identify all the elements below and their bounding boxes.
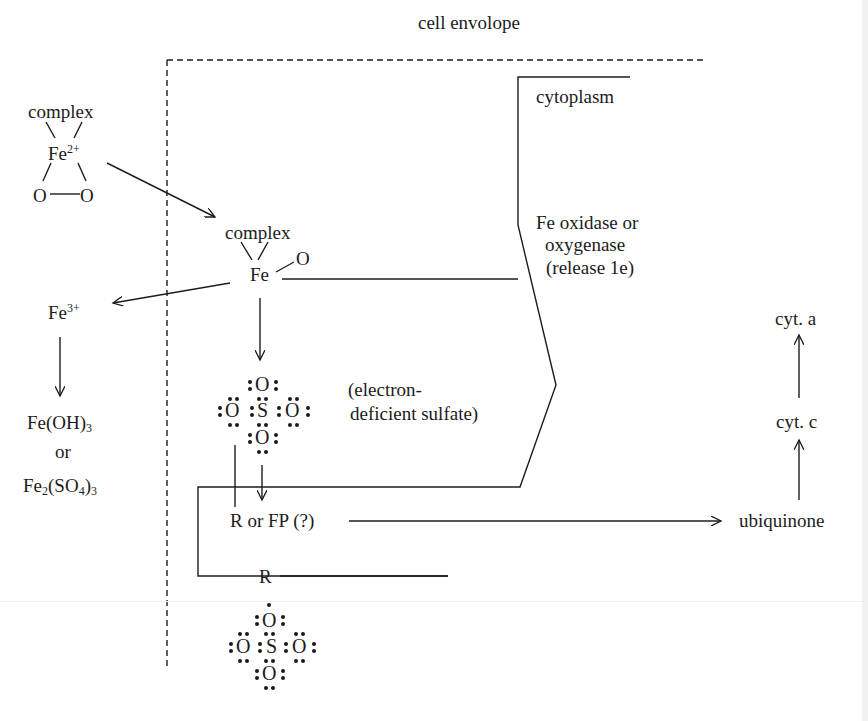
complex-top-label: complex <box>28 102 93 121</box>
enzyme-label-line3: (release 1e) <box>546 258 634 277</box>
cytoplasm-label: cytoplasm <box>536 87 614 106</box>
diagram-lines <box>0 0 868 721</box>
r-or-fp-label: R or FP (?) <box>230 511 314 530</box>
or-label: or <box>55 442 71 461</box>
iron-sulfate: Fe2(SO4)3 <box>23 476 97 497</box>
cyt-a-label: cyt. a <box>775 309 816 328</box>
cell-envelope-label: cell envolope <box>418 13 520 32</box>
arrow-fe-to-fe3 <box>113 283 230 303</box>
enzyme-label-line2: oxygenase <box>545 235 625 254</box>
enzyme-label-line1: Fe oxidase or <box>536 213 638 232</box>
iron-hydroxide: Fe(OH)3 <box>27 413 92 434</box>
scan-edge-strip <box>862 0 868 721</box>
scan-artifact-line <box>0 601 868 602</box>
sulfate-lewis-top: O O S O O <box>212 372 332 492</box>
cytoplasm-membrane <box>198 77 630 576</box>
complex-mid-label: complex <box>225 223 290 242</box>
oxygen-mid: O <box>296 249 310 268</box>
sulfate-note-line1: (electron- <box>348 380 422 399</box>
oxygen-right: O <box>80 186 94 205</box>
arrow-fe2-to-complex <box>107 163 215 217</box>
cyt-c-label: cyt. c <box>776 412 817 431</box>
oxygen-left: O <box>33 186 47 205</box>
fe2-ion: Fe2+ <box>48 143 80 163</box>
sulfate-lewis-bottom: O O S O O <box>220 600 340 720</box>
diagram-canvas: cell envolope cytoplasm complex Fe2+ O O… <box>0 0 868 721</box>
fe-mid: Fe <box>250 265 269 284</box>
ubiquinone-label: ubiquinone <box>739 511 825 530</box>
r-label: R <box>259 567 272 586</box>
fe3-ion: Fe3+ <box>48 302 80 322</box>
sulfate-note-line2: deficient sulfate) <box>350 404 478 423</box>
